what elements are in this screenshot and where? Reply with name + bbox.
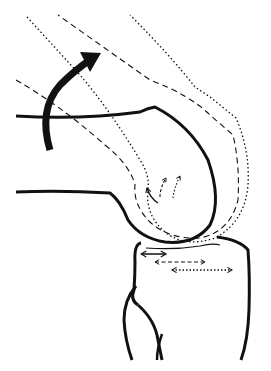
glide-arrows <box>141 254 232 270</box>
fibula-outline <box>124 286 162 360</box>
flexion-arrow-icon <box>46 52 101 150</box>
knee-diagram <box>0 0 271 371</box>
tibia-outline <box>133 237 250 360</box>
femur-outline-dashed <box>16 15 238 238</box>
small-rotation-arrows <box>147 176 180 203</box>
